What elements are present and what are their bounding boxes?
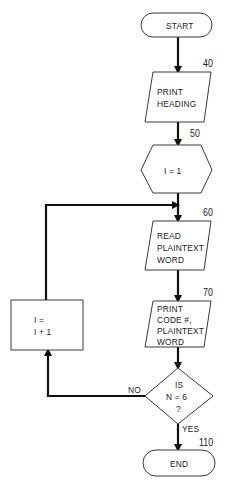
- read-line3: WORD: [157, 254, 184, 265]
- step-number-70: 70: [203, 287, 213, 298]
- increment-line1: I =: [34, 314, 44, 325]
- start-label: START: [166, 20, 194, 31]
- print-code-line3: PLAINTEXT: [157, 325, 204, 336]
- decision-line3: ?: [176, 403, 181, 414]
- end-label: END: [170, 458, 188, 469]
- print-heading-line1: PRINT: [157, 86, 183, 97]
- init-label: I = 1: [164, 165, 181, 176]
- decision-no-label: NO: [128, 384, 141, 395]
- step-number-50: 50: [190, 128, 200, 139]
- step-number-110: 110: [199, 437, 213, 448]
- increment-box: [11, 300, 83, 350]
- print-heading-parallelogram: [145, 72, 211, 122]
- read-line1: READ: [157, 230, 181, 241]
- step-number-60: 60: [203, 207, 213, 218]
- decision-line2: N = 6: [166, 391, 187, 402]
- read-line2: PLAINTEXT: [157, 242, 204, 253]
- decision-yes-label: YES: [182, 423, 199, 434]
- print-heading-line2: HEADING: [157, 98, 196, 109]
- step-number-40: 40: [203, 58, 213, 69]
- print-code-line4: WORD: [157, 336, 184, 347]
- increment-line2: I + 1: [34, 326, 51, 337]
- print-code-line1: PRINT: [157, 303, 183, 314]
- print-code-line2: CODE #,: [157, 314, 192, 325]
- decision-line1: IS: [175, 379, 183, 390]
